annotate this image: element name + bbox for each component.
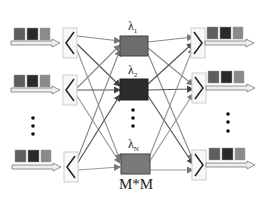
switch-size-label: M*M — [119, 176, 153, 193]
switch-to-mux-links — [148, 37, 193, 170]
lambda-1-label: λ1 — [128, 20, 137, 35]
switch-lambda-2 — [120, 79, 148, 100]
switch-lambda-1 — [120, 36, 148, 56]
input-ellipsis — [31, 116, 35, 136]
output-row-1 — [191, 27, 254, 58]
output-row-2 — [192, 71, 255, 103]
demux-to-switch-links — [77, 36, 120, 170]
switch-ellipsis — [131, 108, 135, 128]
input-row-2 — [11, 75, 77, 105]
input-row-N — [12, 150, 78, 182]
lambda-2-label: λ2 — [128, 64, 137, 79]
switch-lambda-N — [121, 154, 150, 174]
output-row-N — [192, 148, 255, 180]
lambda-N-label: λN — [128, 138, 139, 153]
input-row-1 — [11, 28, 77, 58]
output-ellipsis — [226, 112, 230, 133]
